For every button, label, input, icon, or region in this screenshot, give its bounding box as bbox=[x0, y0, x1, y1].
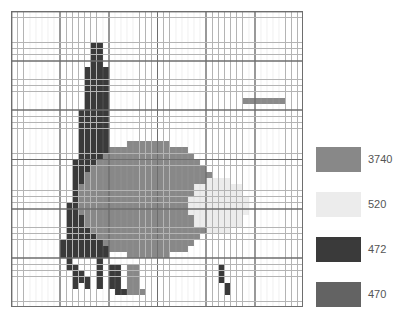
legend-swatch-472 bbox=[316, 237, 361, 262]
legend-label-520: 520 bbox=[368, 192, 386, 217]
legend-label-472: 472 bbox=[368, 237, 386, 262]
legend-swatch-520 bbox=[316, 192, 361, 217]
legend-swatch-3740 bbox=[316, 147, 361, 172]
legend-swatch-470 bbox=[316, 282, 361, 307]
figure-root: 3740 520 472 470 bbox=[0, 0, 402, 320]
raster-grid-canvas bbox=[11, 11, 303, 307]
raster-grid-panel bbox=[11, 11, 303, 307]
legend-item-3740[interactable]: 3740 bbox=[316, 146, 402, 172]
legend-label-470: 470 bbox=[368, 282, 386, 307]
legend-label-3740: 3740 bbox=[368, 147, 392, 172]
legend-item-470[interactable]: 470 bbox=[316, 281, 402, 307]
legend-item-520[interactable]: 520 bbox=[316, 191, 402, 217]
legend-item-472[interactable]: 472 bbox=[316, 236, 402, 262]
raster-value-legend: 3740 520 472 470 bbox=[316, 146, 402, 316]
